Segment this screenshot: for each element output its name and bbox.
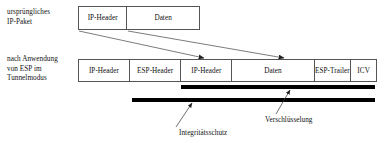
- callout-label-encryption: Verschlüsselung: [265, 116, 312, 124]
- field-esp-daten: Daten: [232, 60, 314, 81]
- packet-row-original: IP-Header Daten: [78, 6, 200, 30]
- field-esp-header: ESP-Header: [130, 60, 182, 81]
- integrity-coverage-bar: [132, 98, 375, 102]
- label-original-packet: ursprüngliches IP-Paket: [7, 8, 50, 27]
- callout-label-integrity: Integritätsschutz: [179, 129, 227, 137]
- diagram-canvas: ursprüngliches IP-Paket nach Anwendung v…: [0, 0, 385, 143]
- leader-line-integrity: [176, 103, 192, 127]
- field-original-daten: Daten: [127, 7, 199, 29]
- encryption-coverage-bar: [181, 85, 375, 89]
- field-esp-inner-ip-header: IP-Header: [181, 60, 232, 81]
- leader-line-encryption: [276, 90, 290, 114]
- connector-daten-arrow: [128, 31, 284, 58]
- label-after-esp-tunnel: nach Anwendung von ESP im Tunnelmodus: [7, 55, 58, 84]
- field-esp-trailer: ESP-Trailer: [315, 60, 352, 81]
- field-esp-outer-ip-header: IP-Header: [79, 60, 130, 81]
- packet-row-esp-tunnel: IP-Header ESP-Header IP-Header Daten ESP…: [78, 59, 377, 82]
- connector-ip-header-arrow: [79, 31, 204, 58]
- field-esp-icv: ICV: [351, 60, 376, 81]
- field-original-ip-header: IP-Header: [79, 7, 127, 29]
